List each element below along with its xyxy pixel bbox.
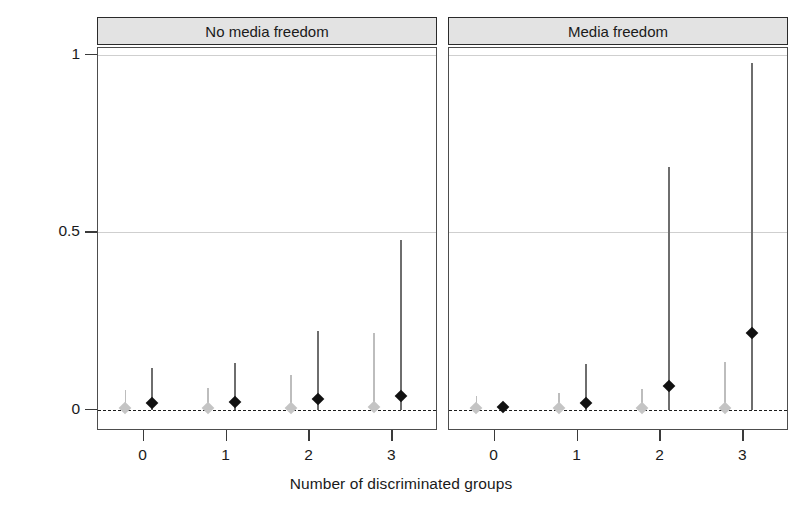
x-tick-mark xyxy=(494,430,495,441)
data-point-marker xyxy=(228,396,241,409)
data-point-marker xyxy=(394,390,407,403)
y-tick-label: 1 xyxy=(32,45,80,63)
data-point-marker xyxy=(470,402,483,415)
x-tick-label: 3 xyxy=(387,446,396,464)
plot-area xyxy=(448,47,788,430)
x-tick-label: 1 xyxy=(221,446,230,464)
data-point-marker xyxy=(719,401,732,414)
x-tick-mark xyxy=(742,430,743,441)
figure-root: Probability of ethnic conflict onset Num… xyxy=(0,0,802,509)
data-point-marker xyxy=(285,401,298,414)
x-tick-label: 0 xyxy=(138,446,147,464)
x-tick-mark xyxy=(308,430,309,441)
zero-reference-line xyxy=(98,410,436,411)
data-point-marker xyxy=(662,380,675,393)
data-point-marker xyxy=(202,402,215,415)
y-tick-mark xyxy=(85,231,97,232)
data-point-marker xyxy=(497,401,510,414)
x-tick-mark xyxy=(659,430,660,441)
x-tick-label: 2 xyxy=(655,446,664,464)
plot-area xyxy=(97,47,437,430)
panel-strip-label: No media freedom xyxy=(97,17,437,45)
data-point-marker xyxy=(146,396,159,409)
y-tick-label: 0.5 xyxy=(32,222,80,240)
gridline xyxy=(98,232,436,233)
error-bar xyxy=(751,63,753,410)
data-point-marker xyxy=(579,396,592,409)
y-tick-mark xyxy=(85,54,97,55)
data-point-marker xyxy=(368,401,381,414)
data-point-marker xyxy=(745,327,758,340)
data-point-marker xyxy=(119,402,132,415)
error-bar xyxy=(400,240,402,410)
x-tick-mark xyxy=(391,430,392,441)
y-tick-mark xyxy=(85,409,97,410)
gridline xyxy=(449,55,787,56)
data-point-marker xyxy=(311,392,324,405)
x-tick-label: 1 xyxy=(572,446,581,464)
x-tick-mark xyxy=(226,430,227,441)
gridline xyxy=(449,232,787,233)
data-point-marker xyxy=(636,402,649,415)
x-tick-label: 3 xyxy=(738,446,747,464)
error-bar xyxy=(668,167,670,410)
x-tick-mark xyxy=(577,430,578,441)
x-axis-title: Number of discriminated groups xyxy=(0,475,802,493)
x-tick-label: 0 xyxy=(489,446,498,464)
gridline xyxy=(98,55,436,56)
x-tick-mark xyxy=(143,430,144,441)
error-bar xyxy=(373,333,375,409)
y-tick-label: 0 xyxy=(32,400,80,418)
panel-strip-label: Media freedom xyxy=(448,17,788,45)
data-point-marker xyxy=(553,402,566,415)
x-tick-label: 2 xyxy=(304,446,313,464)
